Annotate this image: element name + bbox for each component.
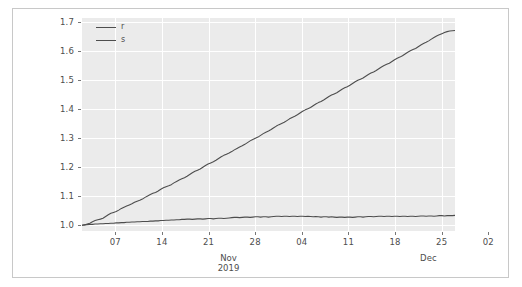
x-axis-tick-mark: [255, 232, 256, 235]
legend-line-swatch: [96, 27, 116, 28]
x-axis-tick-mark: [395, 232, 396, 235]
x-axis-tick-label: 21: [203, 237, 214, 247]
x-axis-tick-mark: [162, 232, 163, 235]
x-axis-tick-mark: [348, 232, 349, 235]
plot-area: [82, 18, 455, 231]
legend-label: r: [121, 22, 124, 32]
month-name: Dec: [420, 253, 436, 263]
series-line-s: [82, 215, 455, 225]
y-axis-tick-label: 1.5: [4, 75, 74, 85]
x-axis-month-label: Nov2019: [218, 253, 240, 273]
legend-line-swatch: [96, 40, 116, 41]
legend-entry-r: r: [96, 22, 125, 32]
x-axis-tick-mark: [115, 232, 116, 235]
y-axis-tick-label: 1.4: [4, 104, 74, 114]
x-axis-tick-label: 07: [110, 237, 121, 247]
x-axis-tick-label: 25: [436, 237, 447, 247]
x-axis-tick-label: 28: [250, 237, 261, 247]
y-axis-tick-mark: [78, 138, 81, 139]
y-axis-tick-label: 1.6: [4, 46, 74, 56]
x-axis-tick-mark: [209, 232, 210, 235]
legend-entry-s: s: [96, 35, 125, 45]
x-axis-tick-label: 04: [296, 237, 307, 247]
year-label: 2019: [218, 263, 240, 273]
y-axis-tick-mark: [78, 80, 81, 81]
x-axis-tick-label: 14: [156, 237, 167, 247]
x-axis-tick-mark: [488, 232, 489, 235]
y-axis-tick-label: 1.0: [4, 220, 74, 230]
y-axis-tick-mark: [78, 225, 81, 226]
y-axis-tick-label: 1.1: [4, 191, 74, 201]
y-axis-tick-label: 1.3: [4, 133, 74, 143]
month-name: Nov: [218, 253, 240, 263]
y-axis-tick-mark: [78, 109, 81, 110]
x-axis-tick-mark: [302, 232, 303, 235]
y-axis-tick-label: 1.7: [4, 17, 74, 27]
x-axis-tick-label: 11: [343, 237, 354, 247]
chart-figure: 1.01.11.21.31.41.51.61.7 071421280411182…: [0, 0, 522, 287]
chart-legend: rs: [96, 22, 125, 45]
x-axis-tick-label: 18: [389, 237, 400, 247]
y-axis-tick-mark: [78, 167, 81, 168]
legend-label: s: [121, 35, 125, 45]
y-axis-tick-mark: [78, 196, 81, 197]
y-axis-tick-mark: [78, 22, 81, 23]
series-line-r: [82, 30, 455, 225]
x-axis-tick-mark: [442, 232, 443, 235]
y-axis-tick-label: 1.2: [4, 162, 74, 172]
x-axis-month-label: Dec: [420, 253, 436, 263]
x-axis-tick-label: 02: [483, 237, 494, 247]
series-lines: [82, 18, 455, 231]
y-axis-tick-mark: [78, 51, 81, 52]
